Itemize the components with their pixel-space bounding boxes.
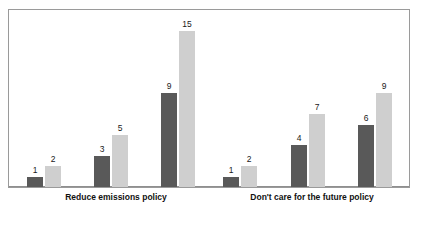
bar-value-label: 4 [288,134,310,143]
bar-value-label: 9 [158,82,180,91]
bar-light-2 [45,166,61,187]
bar-value-label: 1 [24,166,46,175]
bar-value-label: 1 [220,166,242,175]
baseline-axis [9,186,409,187]
bar-dark-6 [358,125,374,187]
bar-dark-4 [291,145,307,187]
bar-value-label: 2 [42,155,64,164]
bar-dark-9 [161,93,177,187]
bar-dark-1 [223,177,239,187]
bar-value-label: 5 [109,124,131,133]
bar-chart: 1235915124769 Reduce emissions policy Do… [0,0,424,227]
group-label-reduce-emissions-policy: Reduce emissions policy [26,192,206,203]
bar-value-label: 2 [238,155,260,164]
bar-light-7 [309,114,325,187]
bar-value-label: 7 [306,103,328,112]
bar-light-2 [241,166,257,187]
bar-value-label: 15 [176,20,198,29]
bar-dark-1 [27,177,43,187]
bar-light-15 [179,31,195,187]
bar-value-label: 6 [355,114,377,123]
group-label-dont-care-for-the-future-policy: Don't care for the future policy [222,192,402,203]
bar-light-9 [376,93,392,187]
bar-value-label: 9 [373,82,395,91]
bar-dark-3 [94,156,110,187]
plot-area: 1235915124769 [9,10,409,187]
bar-value-label: 3 [91,145,113,154]
plot-frame: 1235915124769 [8,9,410,188]
bar-light-5 [112,135,128,187]
